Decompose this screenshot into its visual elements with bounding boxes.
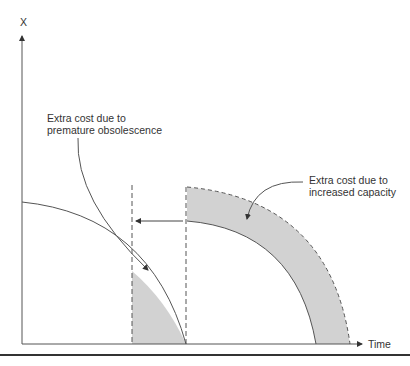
- capacity-annotation: Extra cost due to increased capacity: [309, 174, 396, 198]
- capacity-annotation-line2: increased capacity: [309, 186, 396, 198]
- premature-annotation-line2: premature obsolescence: [47, 124, 162, 136]
- x-axis-label: Time: [368, 338, 391, 350]
- premature-leader: [78, 138, 148, 270]
- premature-annotation-line1: Extra cost due to: [47, 112, 162, 124]
- y-axis-label: X: [20, 16, 27, 28]
- premature-annotation: Extra cost due to premature obsolescence: [47, 112, 162, 136]
- capacity-annotation-line1: Extra cost due to: [309, 174, 396, 186]
